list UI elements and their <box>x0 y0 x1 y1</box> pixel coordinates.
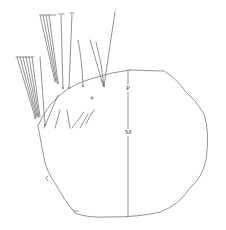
label-p: P <box>125 85 131 92</box>
head-outline <box>38 70 208 217</box>
label-m: M <box>124 129 132 136</box>
head-capsule-diagram <box>0 0 226 230</box>
